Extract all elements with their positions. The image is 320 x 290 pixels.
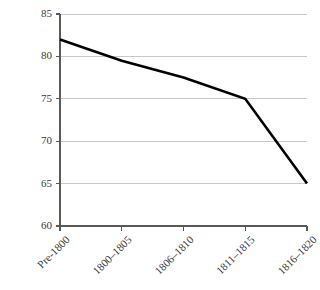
- axis-group: [60, 14, 307, 226]
- y-tick-label: 80: [41, 50, 52, 61]
- y-tick-label: 75: [41, 93, 52, 104]
- chart-figure: 606570758085 Pre-18001800–18051806–18101…: [0, 0, 320, 290]
- data-series-group: [60, 39, 307, 183]
- y-tick-label: 70: [41, 135, 52, 146]
- y-tick-label: 60: [41, 220, 52, 231]
- gridline-group: [60, 14, 307, 184]
- y-tick-label: 85: [41, 8, 52, 19]
- data-line: [60, 39, 307, 183]
- tick-mark-group: [56, 14, 307, 231]
- y-tick-label: 65: [41, 178, 52, 189]
